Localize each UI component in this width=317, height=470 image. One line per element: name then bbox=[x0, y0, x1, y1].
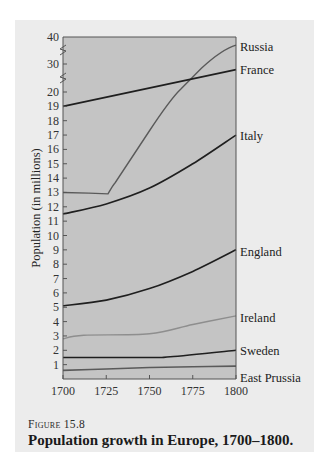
svg-text:1800: 1800 bbox=[224, 384, 248, 398]
svg-text:8: 8 bbox=[53, 257, 59, 271]
label-italy: Italy bbox=[240, 129, 264, 143]
svg-text:20: 20 bbox=[47, 85, 59, 99]
label-ireland: Ireland bbox=[240, 311, 276, 325]
svg-text:1750: 1750 bbox=[138, 384, 162, 398]
svg-text:6: 6 bbox=[53, 286, 59, 300]
label-east-prussia: East Prussia bbox=[240, 371, 301, 385]
population-line-chart: 12345678910111213141516171819203040 1700… bbox=[0, 0, 317, 470]
svg-text:15: 15 bbox=[47, 157, 59, 171]
svg-text:1775: 1775 bbox=[181, 384, 205, 398]
svg-text:13: 13 bbox=[47, 185, 59, 199]
series-labels: RussiaFranceItalyEnglandIrelandSwedenEas… bbox=[240, 40, 301, 385]
svg-text:17: 17 bbox=[47, 128, 59, 142]
svg-text:5: 5 bbox=[53, 300, 59, 314]
svg-text:4: 4 bbox=[53, 315, 59, 329]
svg-text:18: 18 bbox=[47, 114, 59, 128]
svg-text:2: 2 bbox=[53, 343, 59, 357]
svg-text:7: 7 bbox=[53, 272, 59, 286]
label-russia: Russia bbox=[240, 40, 274, 54]
svg-text:16: 16 bbox=[47, 142, 59, 156]
label-france: France bbox=[240, 63, 274, 77]
figure-title: Population growth in Europe, 1700–1800. bbox=[28, 432, 293, 449]
svg-text:19: 19 bbox=[47, 99, 59, 113]
y-axis-label: Population (in millions) bbox=[29, 148, 43, 267]
label-england: England bbox=[240, 245, 282, 259]
svg-text:14: 14 bbox=[47, 171, 59, 185]
svg-text:1725: 1725 bbox=[94, 384, 118, 398]
svg-text:11: 11 bbox=[47, 214, 59, 228]
svg-text:3: 3 bbox=[53, 329, 59, 343]
svg-text:10: 10 bbox=[47, 229, 59, 243]
figure-label: Figure 15.8 bbox=[28, 418, 85, 430]
svg-text:1: 1 bbox=[53, 358, 59, 372]
label-sweden: Sweden bbox=[240, 344, 280, 358]
svg-text:12: 12 bbox=[47, 200, 59, 214]
svg-text:30: 30 bbox=[47, 57, 59, 71]
svg-text:9: 9 bbox=[53, 243, 59, 257]
svg-text:1700: 1700 bbox=[51, 384, 75, 398]
svg-text:40: 40 bbox=[47, 30, 59, 44]
